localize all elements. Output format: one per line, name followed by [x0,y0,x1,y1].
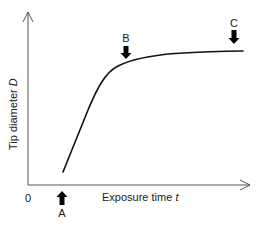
tip-diameter-diagram: 0 Exposure time t Tip diameter D A B C [0,0,263,225]
y-axis-title-text: Tip diameter [7,86,19,150]
diagram-canvas: 0 Exposure time t Tip diameter D A B C [0,0,263,225]
marker-b-label: B [122,32,129,44]
x-axis-variable: t [175,191,179,203]
arrow-up-icon [57,191,68,205]
y-axis [23,12,33,185]
marker-c-label: C [230,17,238,29]
x-axis-title: Exposure time t [102,191,179,203]
marker-a: A [57,191,68,219]
origin-label: 0 [25,192,31,204]
marker-c: C [229,17,240,44]
marker-b: B [121,32,132,59]
y-axis-title: Tip diameter D [7,78,19,150]
arrow-down-icon [121,46,132,59]
x-axis-title-text: Exposure time [102,191,175,203]
arrow-down-icon [229,30,240,44]
growth-curve [63,51,243,172]
marker-a-label: A [58,207,66,219]
y-axis-variable: D [7,78,19,86]
x-axis [28,180,250,190]
